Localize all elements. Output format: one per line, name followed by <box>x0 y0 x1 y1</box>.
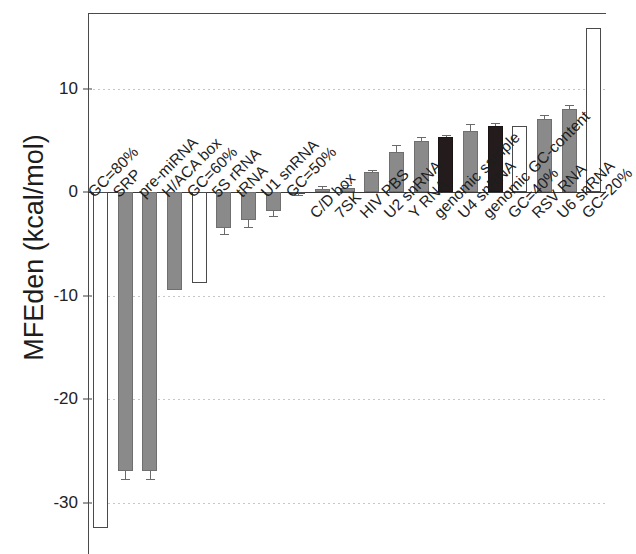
gridline <box>88 89 606 90</box>
error-bar <box>125 471 126 478</box>
error-bar-cap <box>417 137 426 138</box>
error-bar <box>150 471 151 478</box>
error-bar-cap <box>220 234 229 235</box>
y-axis-title: MFEden (kcal/mol) <box>19 98 50 398</box>
error-bar-cap <box>491 123 500 124</box>
error-bar-cap <box>244 227 253 228</box>
error-bar-cap <box>466 124 475 125</box>
plot-border-top <box>88 13 606 14</box>
error-bar-cap <box>269 216 278 217</box>
gridline <box>88 296 606 297</box>
error-bar <box>470 124 471 131</box>
error-bar-cap <box>442 135 451 136</box>
bar <box>142 192 157 471</box>
bar <box>167 192 182 290</box>
y-tick-label: 0 <box>32 182 78 202</box>
gridline <box>88 399 606 400</box>
error-bar-cap <box>368 170 377 171</box>
error-bar-cap <box>392 145 401 146</box>
error-bar-cap <box>565 105 574 106</box>
error-bar-cap <box>540 115 549 116</box>
error-bar <box>248 220 249 227</box>
error-bar-cap <box>121 479 130 480</box>
bar <box>192 192 207 283</box>
y-tick-label: -30 <box>32 493 78 513</box>
error-bar-cap <box>146 479 155 480</box>
gridline <box>88 503 606 504</box>
y-tick-label: -20 <box>32 389 78 409</box>
error-bar-cap <box>318 186 327 187</box>
y-tick-label: -10 <box>32 286 78 306</box>
plot-border-left <box>88 13 89 554</box>
y-tick-label: 10 <box>32 79 78 99</box>
bar <box>118 192 133 471</box>
bar <box>93 192 108 528</box>
